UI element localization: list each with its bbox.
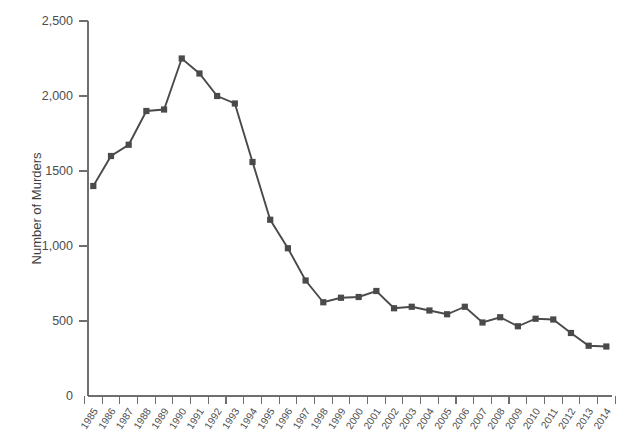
x-tick-label: 1993 (220, 406, 242, 431)
murders-line-chart: 05001,00015002,0002,500 1985198619871988… (0, 0, 629, 437)
x-tick-label: 1990 (167, 406, 189, 431)
data-point-marker (515, 323, 521, 329)
x-tick-label: 1986 (96, 406, 118, 431)
data-point-marker (409, 304, 415, 310)
x-tick-label: 2006 (450, 406, 472, 431)
data-point-marker (356, 294, 362, 300)
data-point-marker (108, 153, 114, 159)
y-tick-label: 0 (66, 389, 73, 403)
data-point-marker (179, 55, 185, 61)
data-point-marker (214, 93, 220, 99)
x-tick-label: 2003 (397, 406, 419, 431)
x-axis: 1985198619871988198919901991199219931994… (78, 396, 615, 431)
data-point-marker (586, 343, 592, 349)
data-point-marker (143, 108, 149, 114)
x-tick-label: 2005 (432, 406, 454, 431)
chart-canvas: 05001,00015002,0002,500 1985198619871988… (0, 0, 629, 437)
x-tick-label: 2004 (415, 406, 437, 431)
x-tick-label: 1991 (185, 406, 207, 431)
x-tick-label: 1995 (255, 406, 277, 431)
data-point-marker (479, 319, 485, 325)
data-point-marker (497, 314, 503, 320)
y-tick-label: 2,500 (42, 14, 73, 28)
x-tick-label: 2008 (485, 406, 507, 431)
data-point-marker (338, 295, 344, 301)
data-point-marker (161, 106, 167, 112)
data-point-marker (126, 142, 132, 148)
x-tick-label: 2010 (521, 406, 543, 431)
x-tick-label: 1996 (273, 406, 295, 431)
data-point-marker (232, 100, 238, 106)
x-tick-label: 1997 (291, 406, 313, 431)
data-point-marker (373, 288, 379, 294)
data-point-marker (320, 299, 326, 305)
data-point-marker (285, 245, 291, 251)
x-tick-label: 1989 (149, 406, 171, 431)
x-tick-label: 2007 (468, 406, 490, 431)
data-point-marker (267, 217, 273, 223)
data-point-marker (391, 305, 397, 311)
x-tick-label: 2000 (344, 406, 366, 431)
x-tick-label: 2014 (591, 406, 613, 431)
x-tick-label: 2009 (503, 406, 525, 431)
y-axis-title-text: Number of Murders (29, 152, 44, 264)
y-axis: 05001,00015002,0002,500 (42, 14, 88, 403)
y-tick-label: 1500 (45, 164, 73, 178)
y-tick-label: 2,000 (42, 89, 73, 103)
data-point-marker (550, 316, 556, 322)
series-polyline (93, 59, 606, 347)
murders-series (90, 55, 609, 349)
x-tick-label: 1985 (78, 406, 100, 431)
data-point-marker (444, 311, 450, 317)
y-tick-label: 1,000 (42, 239, 73, 253)
data-point-marker (426, 307, 432, 313)
x-tick-label: 2001 (361, 406, 383, 431)
x-tick-label: 1999 (326, 406, 348, 431)
data-point-marker (90, 183, 96, 189)
y-tick-label: 500 (52, 314, 73, 328)
x-tick-label: 1994 (238, 406, 260, 431)
data-point-marker (303, 277, 309, 283)
data-point-marker (462, 304, 468, 310)
x-tick-label: 2002 (379, 406, 401, 431)
y-axis-title: Number of Murders (29, 152, 44, 264)
x-tick-label: 2013 (574, 406, 596, 431)
x-tick-label: 1992 (202, 406, 224, 431)
x-tick-label: 1998 (308, 406, 330, 431)
x-tick-label: 1988 (131, 406, 153, 431)
data-point-marker (196, 70, 202, 76)
data-point-marker (603, 343, 609, 349)
x-tick-label: 2012 (556, 406, 578, 431)
data-point-marker (249, 159, 255, 165)
data-point-marker (532, 316, 538, 322)
x-tick-label: 1987 (114, 406, 136, 431)
data-point-marker (568, 330, 574, 336)
